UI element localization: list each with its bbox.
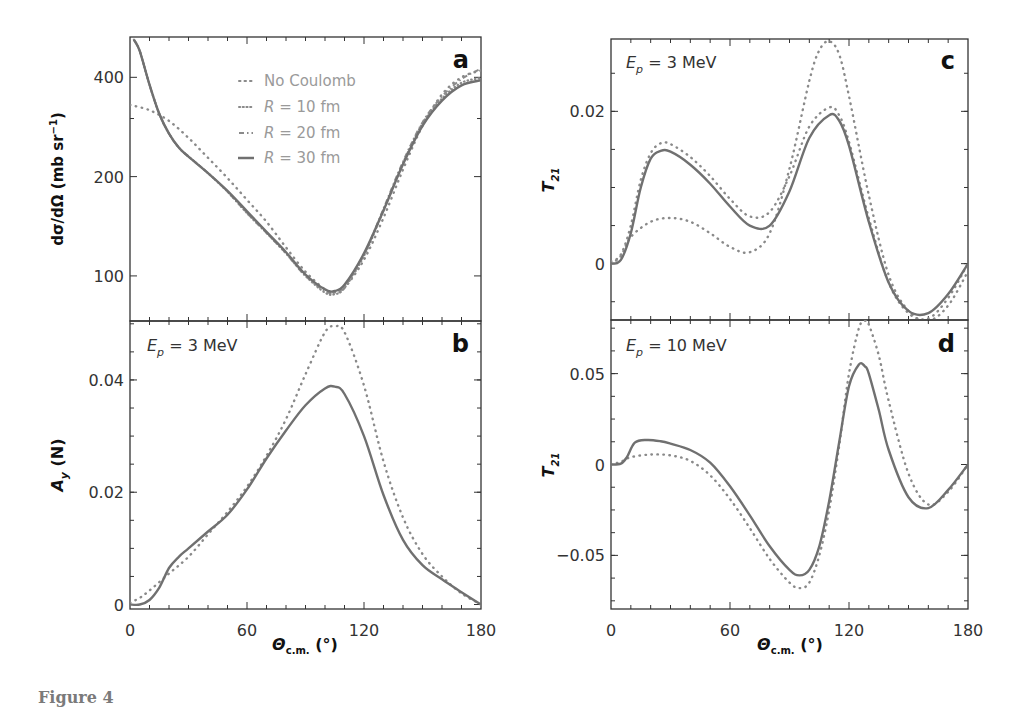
curve-r-30-fm (130, 386, 481, 605)
figure-caption: Figure 4 (38, 688, 114, 707)
panel-label-d: d (938, 330, 955, 358)
y-tick-label: −0.05 (556, 546, 605, 565)
panel-c-curves (611, 41, 968, 321)
y-tick-label: 0.02 (569, 102, 605, 121)
y-tick-label: 0 (595, 255, 605, 274)
panel-d-curves (611, 320, 968, 588)
x-tick-label: 180 (953, 621, 984, 640)
y-axis-label-a: dσ/dΩ (mb sr−1) (48, 112, 67, 246)
curve-r-30-fm (611, 114, 968, 315)
panel-label-a: a (453, 46, 469, 74)
y-axis-label-c: T21 (539, 168, 561, 193)
curve-r-10-fm (611, 107, 968, 320)
panel-label-b: b (452, 330, 469, 358)
legend-label-r10: R = 10 fm (264, 98, 340, 116)
x-tick-label: 0 (606, 621, 616, 640)
x-tick-label: 120 (834, 621, 865, 640)
panel-c: 00.02 c Ep = 3 MeV T21 (539, 39, 968, 321)
y-tick-label: 100 (93, 267, 124, 286)
y-tick-label: 0.04 (88, 371, 124, 390)
energy-annotation-b: Ep = 3 MeV (147, 336, 238, 359)
y-axis-label-b: Ay (N) (48, 438, 71, 493)
y-tick-label: 0.05 (569, 365, 605, 384)
curve-no-coulomb (130, 326, 481, 605)
legend-label-r20: R = 20 fm (264, 124, 340, 142)
panel-b-ticks: 06012018000.020.04 (88, 321, 496, 640)
x-axis-label-right: Θc.m. (°) (757, 635, 823, 656)
y-tick-label: 0 (595, 456, 605, 475)
legend-label-no-coulomb: No Coulomb (264, 72, 356, 90)
panel-a: 100200400 a No Coulomb R = 10 fm R = 20 … (48, 37, 481, 321)
curve-no-coulomb (611, 41, 968, 321)
panel-label-c: c (941, 47, 955, 75)
y-tick-label: 0 (114, 596, 124, 615)
curve-r-30-fm (611, 363, 968, 575)
panel-b: 06012018000.020.04 b Ep = 3 MeV Ay (N) Θ… (48, 321, 496, 656)
panel-d: 060120180−0.0500.05 d Ep = 10 MeV T21 Θc… (539, 320, 983, 656)
x-tick-label: 60 (720, 621, 740, 640)
panel-b-frame (130, 321, 481, 609)
x-axis-label-left: Θc.m. (°) (272, 635, 338, 656)
panel-c-frame (611, 39, 968, 320)
energy-annotation-d: Ep = 10 MeV (626, 336, 727, 359)
y-axis-label-d: T21 (539, 453, 561, 478)
figure-canvas: 100200400 a No Coulomb R = 10 fm R = 20 … (0, 0, 1011, 720)
panel-c-ticks: 00.02 (569, 39, 968, 320)
curve-no-coulomb (611, 320, 968, 588)
x-tick-label: 180 (466, 621, 497, 640)
x-tick-label: 120 (349, 621, 380, 640)
legend-label-r30: R = 30 fm (264, 149, 340, 167)
y-tick-label: 400 (93, 68, 124, 87)
x-tick-label: 0 (125, 621, 135, 640)
x-tick-label: 60 (237, 621, 257, 640)
panel-b-curves (130, 326, 481, 605)
panel-d-frame (611, 320, 968, 609)
energy-annotation-c: Ep = 3 MeV (626, 53, 717, 76)
y-tick-label: 0.02 (88, 483, 124, 502)
legend: No Coulomb R = 10 fm R = 20 fm R = 30 fm (238, 72, 356, 167)
y-tick-label: 200 (93, 168, 124, 187)
panel-d-ticks: 060120180−0.0500.05 (556, 320, 983, 640)
